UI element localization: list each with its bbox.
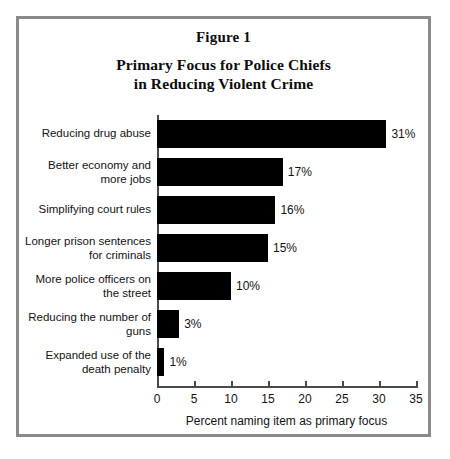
bar-row: Reducing the number of guns3% — [19, 310, 419, 338]
bar — [157, 158, 283, 186]
bar-row: Reducing drug abuse31% — [19, 120, 419, 148]
category-label: Reducing the number of guns — [21, 311, 151, 338]
bar — [157, 348, 164, 376]
x-tick-label: 0 — [154, 392, 161, 406]
x-tick-label: 5 — [191, 392, 198, 406]
x-tick — [157, 381, 159, 386]
bar-value-label: 31% — [386, 127, 415, 141]
bar-value-label: 3% — [179, 317, 201, 331]
bar-value-label: 10% — [231, 279, 260, 293]
category-label: More police officers on the street — [21, 273, 151, 300]
bar-row: Better economy and more jobs17% — [19, 158, 419, 186]
x-tick-label: 25 — [335, 392, 348, 406]
x-axis-title: Percent naming item as primary focus — [186, 414, 387, 428]
x-axis-line — [157, 386, 418, 388]
x-tick — [194, 381, 196, 386]
bar — [157, 196, 275, 224]
bar-row: Simplifying court rules16% — [19, 196, 419, 224]
category-label: Simplifying court rules — [21, 203, 151, 217]
x-tick-label: 35 — [409, 392, 422, 406]
x-tick — [231, 381, 233, 386]
bar — [157, 310, 179, 338]
category-label: Better economy and more jobs — [21, 159, 151, 186]
x-tick-label: 15 — [261, 392, 274, 406]
x-tick — [379, 381, 381, 386]
figure-frame: Figure 1 Primary Focus for Police Chiefs… — [16, 16, 431, 437]
bar-value-label: 1% — [164, 355, 186, 369]
category-label: Longer prison sentences for criminals — [21, 235, 151, 262]
x-tick — [416, 381, 418, 386]
x-tick-label: 30 — [372, 392, 385, 406]
x-tick-label: 20 — [298, 392, 311, 406]
x-tick-label: 10 — [224, 392, 237, 406]
bar-value-label: 15% — [268, 241, 297, 255]
category-label: Reducing drug abuse — [21, 127, 151, 141]
bar-value-label: 17% — [283, 165, 312, 179]
bar — [157, 272, 231, 300]
bar-row: Longer prison sentences for criminals15% — [19, 234, 419, 262]
bar-chart-plot: 05101520253035 Reducing drug abuse31%Bet… — [19, 19, 428, 434]
bar-row: Expanded use of the death penalty1% — [19, 348, 419, 376]
x-tick — [305, 381, 307, 386]
category-label: Expanded use of the death penalty — [21, 349, 151, 376]
bar — [157, 120, 386, 148]
bar — [157, 234, 268, 262]
x-tick — [268, 381, 270, 386]
bar-row: More police officers on the street10% — [19, 272, 419, 300]
bar-value-label: 16% — [275, 203, 304, 217]
x-tick — [342, 381, 344, 386]
